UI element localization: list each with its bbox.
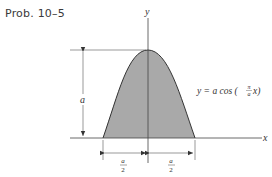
svg-text:a: a <box>121 157 125 165</box>
svg-text:a: a <box>169 157 173 165</box>
left-half-label: a 2 <box>120 157 127 174</box>
svg-text:a: a <box>248 91 251 97</box>
svg-text:y = a cos (: y = a cos ( <box>196 86 239 97</box>
curve-equation: y = a cos ( π a x) <box>196 84 260 97</box>
svg-text:2: 2 <box>169 166 173 174</box>
svg-text:x): x) <box>252 86 260 97</box>
cosine-area-diagram: x y a a 2 a 2 y = a cos ( π a x) <box>0 0 272 177</box>
svg-text:π: π <box>247 84 251 90</box>
height-label: a <box>80 94 85 105</box>
right-half-label: a 2 <box>168 157 175 174</box>
svg-text:2: 2 <box>121 166 125 174</box>
x-axis-label: x <box>262 132 268 143</box>
shaded-region <box>103 50 195 138</box>
y-axis-label: y <box>144 6 150 17</box>
